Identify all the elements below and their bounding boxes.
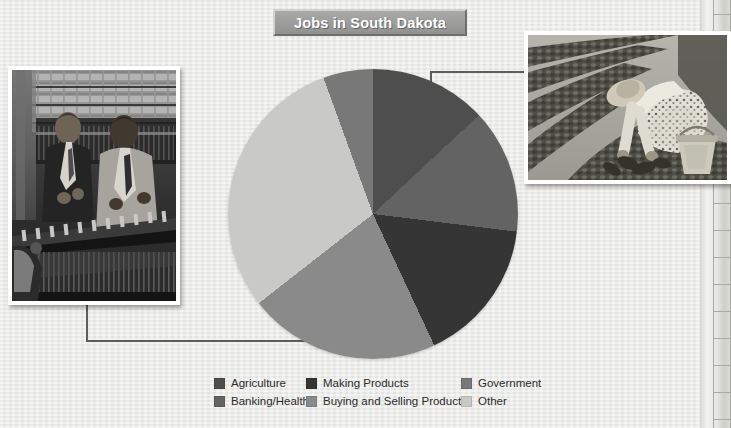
legend-label-other: Other [478, 395, 507, 407]
legend-item-government: Government [461, 377, 574, 389]
legend-item-other: Other [461, 395, 574, 407]
legend-swatch-agriculture [214, 378, 225, 389]
photo-agriculture [524, 31, 731, 184]
pie-chart [228, 69, 518, 359]
legend-label-banking-health: Banking/Health [231, 395, 309, 407]
field-photo-artwork [528, 35, 727, 180]
legend-label-government: Government [478, 377, 541, 389]
legend-swatch-government [461, 378, 472, 389]
legend-item-banking-health: Banking/Health [214, 395, 306, 407]
legend-swatch-making-products [306, 378, 317, 389]
store-photo-artwork [12, 70, 176, 301]
page-title-text: Jobs in South Dakota [294, 15, 446, 31]
legend-swatch-other [461, 396, 472, 407]
legend-swatch-banking-health [214, 396, 225, 407]
legend-label-buying-and-selling-products: Buying and Selling Products [323, 395, 467, 407]
legend-swatch-buying-and-selling-products [306, 396, 317, 407]
connector-left-vertical [86, 305, 88, 341]
pie-chart-slices [228, 69, 518, 359]
legend-item-agriculture: Agriculture [214, 377, 306, 389]
page-title: Jobs in South Dakota [273, 9, 467, 36]
page-background: Jobs in South Dakota [0, 0, 731, 428]
legend-item-making-products: Making Products [306, 377, 461, 389]
chart-legend: Agriculture Making Products Government B… [214, 374, 574, 410]
legend-label-making-products: Making Products [323, 377, 409, 389]
legend-label-agriculture: Agriculture [231, 377, 286, 389]
photo-buying-and-selling [8, 66, 180, 305]
legend-item-buying-and-selling-products: Buying and Selling Products [306, 395, 461, 407]
